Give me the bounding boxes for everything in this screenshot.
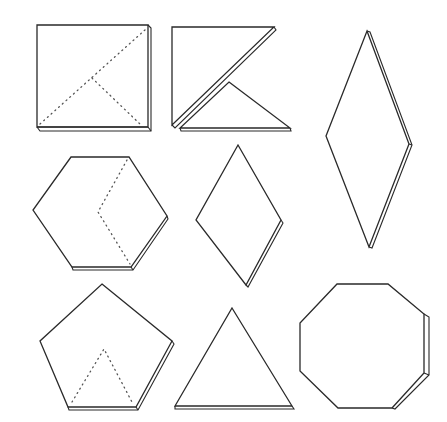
octagon-shape [300,284,429,409]
rhombus-shape [196,145,283,287]
shapes-figure: Line drawing of flat geometric tiles wit… [0,0,447,422]
triangle-shape [175,308,294,409]
tall-rhombus-shape [326,31,412,248]
hexagon-shape [33,157,168,270]
square-shape [37,25,151,131]
shapes-canvas [0,0,447,422]
split-square-triangles-shape [172,27,291,131]
pentagon-shape [40,284,174,410]
